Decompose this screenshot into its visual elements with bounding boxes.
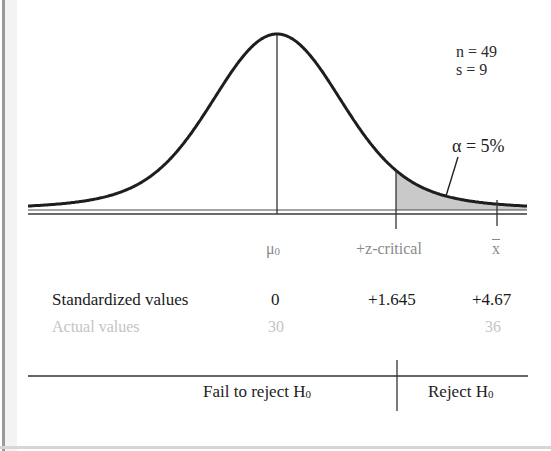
actual-mu: 30: [268, 319, 284, 335]
reject-label: Reject H0: [428, 383, 493, 400]
z-critical-label: +z-critical: [356, 241, 422, 257]
standardized-z-critical: +1.645: [368, 291, 416, 308]
std-dev-label: s = 9: [456, 62, 487, 78]
mu-zero-label: μ0: [266, 241, 280, 257]
fail-to-reject-label: Fail to reject H0: [203, 383, 311, 400]
sample-size-label: n = 49: [456, 44, 497, 60]
standardized-x-bar: +4.67: [472, 291, 511, 308]
standardized-values-label: Standardized values: [52, 291, 188, 308]
standardized-mu: 0: [271, 291, 280, 308]
x-bar-label: x: [492, 241, 500, 257]
actual-values-label: Actual values: [52, 319, 140, 335]
alpha-label: α = 5%: [452, 137, 505, 155]
alpha-pointer: [446, 157, 458, 196]
actual-x-bar: 36: [485, 319, 501, 335]
